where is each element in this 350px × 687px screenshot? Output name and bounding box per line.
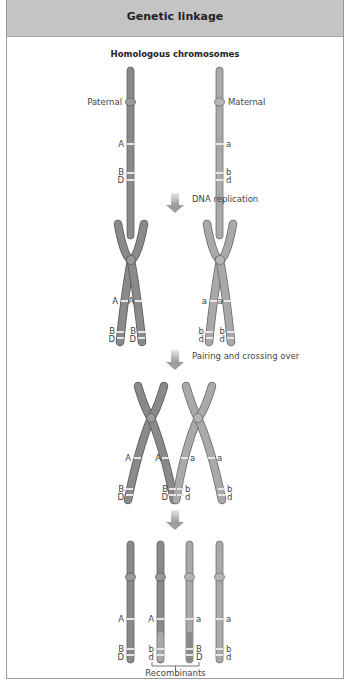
centromere-icon bbox=[215, 573, 225, 581]
allele-label: A bbox=[148, 614, 154, 624]
maternal-chromosome bbox=[215, 67, 225, 239]
final-chromosome-1 bbox=[126, 541, 136, 663]
allele-label: D bbox=[108, 334, 115, 344]
allele-label: a bbox=[218, 296, 223, 306]
allele-label: a bbox=[196, 614, 201, 624]
allele-label: D bbox=[117, 492, 124, 502]
allele-label: A bbox=[155, 453, 161, 463]
step-label-replication: DNA replication bbox=[192, 194, 258, 204]
allele-label: D bbox=[196, 652, 203, 662]
allele-label: d bbox=[185, 492, 190, 502]
allele-label: d bbox=[227, 492, 232, 502]
allele-label: a bbox=[202, 296, 207, 306]
allele-label: A bbox=[118, 139, 124, 149]
centromere-icon bbox=[147, 414, 156, 423]
paternal-label: Paternal bbox=[87, 97, 122, 107]
step-label-crossing-over: Pairing and crossing over bbox=[192, 351, 300, 361]
allele-label: D bbox=[117, 652, 124, 662]
centromere-icon bbox=[156, 573, 166, 581]
allele-label: d bbox=[226, 652, 231, 662]
allele-label: a bbox=[226, 614, 231, 624]
allele-label: D bbox=[161, 492, 168, 502]
final-chromosome-2-recombinant bbox=[156, 541, 166, 663]
allele-label: A bbox=[128, 296, 134, 306]
centromere-icon bbox=[127, 256, 136, 265]
maternal-replicated-chromosome bbox=[206, 224, 234, 342]
centromere-icon bbox=[216, 256, 225, 265]
allele-label: d bbox=[149, 652, 154, 662]
recombinants-label: Recombinants bbox=[145, 668, 206, 678]
allele-label: a bbox=[190, 453, 195, 463]
allele-label: D bbox=[117, 175, 124, 185]
down-arrow-icon bbox=[166, 193, 184, 213]
allele-label: A bbox=[125, 453, 131, 463]
centromere-icon bbox=[185, 573, 195, 581]
allele-label: D bbox=[129, 334, 136, 344]
down-arrow-icon bbox=[166, 350, 184, 370]
genetic-linkage-diagram: Homologous chromosomes Paternal A B D Ma… bbox=[0, 0, 350, 687]
section-title: Homologous chromosomes bbox=[111, 49, 240, 59]
centromere-icon bbox=[126, 573, 136, 581]
allele-label: A bbox=[118, 614, 124, 624]
final-chromosome-3-recombinant bbox=[185, 541, 195, 663]
paternal-chromosome bbox=[126, 67, 136, 239]
allele-label: a bbox=[226, 139, 231, 149]
allele-label: d bbox=[220, 334, 225, 344]
allele-label: d bbox=[199, 334, 204, 344]
centromere-icon bbox=[194, 414, 203, 423]
paternal-replicated-chromosome bbox=[117, 224, 145, 342]
allele-label: a bbox=[217, 453, 222, 463]
allele-label: A bbox=[112, 296, 118, 306]
maternal-label: Maternal bbox=[228, 97, 265, 107]
centromere-icon bbox=[126, 98, 136, 106]
crossing-over-chromosomes bbox=[126, 386, 225, 500]
down-arrow-icon bbox=[166, 510, 184, 530]
centromere-icon bbox=[215, 98, 225, 106]
allele-label: d bbox=[226, 175, 231, 185]
final-chromosome-4 bbox=[215, 541, 225, 663]
